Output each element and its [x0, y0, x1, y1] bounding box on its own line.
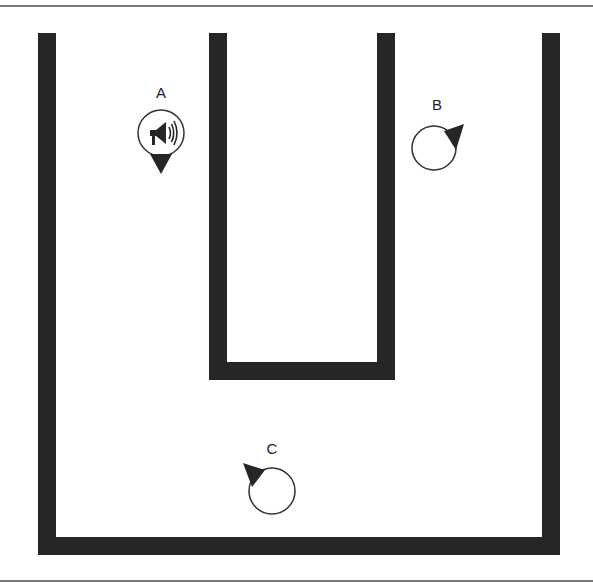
outer-right-wall: [542, 33, 560, 555]
agent-a-label: A: [151, 84, 171, 101]
agent-c-label: C: [262, 440, 282, 457]
agent-a-marker: [136, 108, 186, 178]
bottom-border-line: [0, 580, 593, 582]
agent-c-marker: [240, 460, 300, 520]
outer-bottom-wall: [38, 537, 560, 555]
agent-b-marker: [410, 118, 470, 178]
top-border-line: [0, 5, 593, 7]
outer-left-wall: [38, 33, 56, 555]
inner-right-wall: [377, 33, 395, 380]
inner-left-wall: [209, 33, 227, 380]
inner-bottom-wall: [209, 362, 395, 380]
agent-b-label: B: [427, 96, 447, 113]
